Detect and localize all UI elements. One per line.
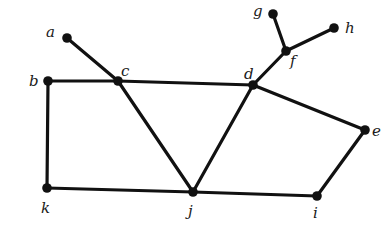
- edge-b-k: [47, 81, 48, 188]
- node-label-b: b: [29, 72, 39, 90]
- node-label-i: i: [313, 204, 318, 222]
- node-label-g: g: [253, 2, 263, 20]
- edge-e-d: [253, 85, 365, 130]
- node-label-a: a: [46, 23, 55, 41]
- node-g: [268, 9, 278, 19]
- edge-f-g: [273, 14, 286, 51]
- node-k: [42, 183, 52, 193]
- node-label-k: k: [41, 199, 50, 217]
- node-j: [188, 187, 198, 197]
- node-label-f: f: [289, 52, 298, 70]
- graph-diagram: abcdefghijk: [0, 0, 391, 234]
- node-label-c: c: [121, 62, 130, 80]
- edge-f-h: [286, 28, 334, 51]
- edges-layer: [47, 14, 365, 196]
- node-i: [312, 191, 322, 201]
- node-h: [329, 23, 339, 33]
- node-label-h: h: [345, 19, 355, 37]
- edge-j-i: [193, 192, 317, 196]
- node-b: [43, 76, 53, 86]
- edge-d-j: [193, 85, 253, 192]
- edge-d-f: [253, 51, 286, 85]
- edge-k-j: [47, 188, 193, 192]
- node-label-j: j: [185, 202, 193, 220]
- edge-a-c: [67, 38, 118, 81]
- node-label-e: e: [372, 122, 381, 140]
- node-a: [62, 33, 72, 43]
- edge-c-j: [118, 81, 193, 192]
- edge-i-e: [317, 130, 365, 196]
- node-label-d: d: [244, 65, 254, 83]
- node-e: [360, 125, 370, 135]
- edge-c-d: [118, 81, 253, 85]
